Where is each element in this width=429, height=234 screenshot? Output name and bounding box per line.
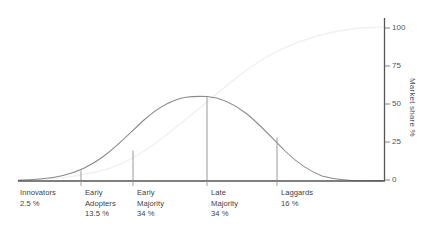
y-axis-tick-label-25: 25 [392,137,401,146]
segment-name-early-adopters-line2: Adopters [85,199,116,210]
y-axis-title: Market share % [408,78,417,137]
segment-pct-late-majority: 34 % [211,209,238,220]
segment-pct-early-adopters: 13.5 % [85,209,116,220]
cumulative-adoption-curve [18,27,383,180]
segment-pct-innovators: 2.5 % [20,199,56,210]
segment-name-laggards: Laggards [281,188,313,199]
diffusion-of-innovation-chart: 100 75 50 25 0 Market share % Innovators… [0,0,429,234]
segment-name-early-majority-line2: Majority [137,199,164,210]
segment-name-early-majority-line1: Early [137,188,164,199]
segment-name-late-majority-line2: Majority [211,199,238,210]
segment-pct-early-majority: 34 % [137,209,164,220]
segment-name-late-majority-line1: Late [211,188,238,199]
segment-label-early-adopters: Early Adopters 13.5 % [85,188,116,220]
y-axis-tick-label-100: 100 [392,23,406,32]
segment-label-early-majority: Early Majority 34 % [137,188,164,220]
segment-label-innovators: Innovators 2.5 % [20,188,56,209]
segment-name-early-adopters-line1: Early [85,188,116,199]
segment-name-innovators: Innovators [20,188,56,199]
adoption-bell-curve [18,96,383,180]
y-axis-tick-label-0: 0 [392,175,397,184]
segment-label-laggards: Laggards 16 % [281,188,313,209]
segment-pct-laggards: 16 % [281,199,313,210]
y-axis-tick-label-75: 75 [392,61,401,70]
segment-label-late-majority: Late Majority 34 % [211,188,238,220]
y-axis-tick-label-50: 50 [392,99,401,108]
